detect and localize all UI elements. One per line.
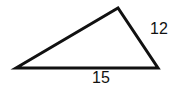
triangle-figure	[0, 0, 172, 91]
side-label-bottom: 15	[92, 70, 110, 86]
triangle	[16, 8, 158, 68]
side-label-right: 12	[150, 21, 168, 37]
